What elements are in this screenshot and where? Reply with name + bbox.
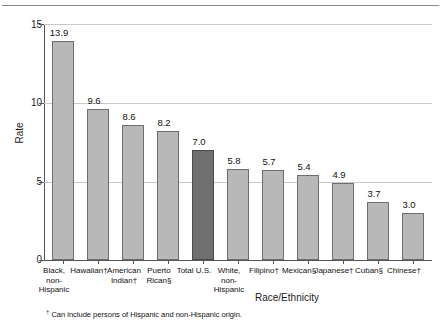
- bar-mexican[interactable]: [297, 175, 319, 260]
- ytick-label-5: 5: [8, 177, 42, 187]
- category-line: non-: [46, 276, 62, 285]
- bar-value-puerto-rican: 8.2: [147, 118, 181, 128]
- bar-value-white-non-hispanic: 5.8: [217, 156, 251, 166]
- bar-japanese[interactable]: [332, 183, 354, 260]
- category-line: Chinese†: [387, 266, 421, 275]
- category-line: Puerto: [147, 266, 171, 275]
- category-line: Hispanic: [214, 285, 245, 294]
- bar-value-chinese: 3.0: [392, 200, 426, 210]
- footnote-text: Can include persons of Hispanic and non-…: [49, 310, 242, 319]
- category-line: non-: [221, 276, 237, 285]
- bar-value-filipino: 5.7: [252, 157, 286, 167]
- xtick-mark-0: [63, 260, 64, 264]
- ytick-label-10: 10: [8, 98, 42, 108]
- bar-black-non-hispanic[interactable]: [52, 41, 74, 260]
- bar-hawaiian[interactable]: [87, 109, 109, 260]
- x-axis-label: Race/Ethnicity: [255, 292, 415, 303]
- category-line: Black,: [43, 266, 65, 275]
- xtick-mark-2: [133, 260, 134, 264]
- top-divider-rule: [2, 5, 439, 6]
- bar-value-american-indian: 8.6: [112, 112, 146, 122]
- bar-total-us[interactable]: [192, 150, 214, 260]
- category-line: White,: [218, 266, 241, 275]
- xtick-mark-6: [273, 260, 274, 264]
- bar-value-hawaiian: 9.6: [77, 96, 111, 106]
- category-label-chinese: Chinese†: [379, 266, 429, 276]
- y-axis-label: Rate: [15, 107, 25, 159]
- plot-area: [44, 24, 432, 260]
- xtick-mark-4: [203, 260, 204, 264]
- bar-filipino[interactable]: [262, 170, 284, 260]
- bar-value-mexican: 5.4: [287, 162, 321, 172]
- bar-value-cuban: 3.7: [357, 189, 391, 199]
- bar-white-non-hispanic[interactable]: [227, 169, 249, 260]
- bar-cuban[interactable]: [367, 202, 389, 260]
- bar-chinese[interactable]: [402, 213, 424, 260]
- ytick-label-15: 15: [8, 20, 42, 30]
- gridline-15: [44, 24, 432, 25]
- xtick-mark-3: [168, 260, 169, 264]
- xtick-mark-8: [343, 260, 344, 264]
- bar-american-indian[interactable]: [122, 125, 144, 260]
- bar-value-total-us: 7.0: [182, 137, 216, 147]
- category-line: Hispanic: [39, 285, 70, 294]
- bar-puerto-rican[interactable]: [157, 131, 179, 260]
- ytick-label-0: 0: [8, 255, 42, 265]
- bar-value-black-non-hispanic: 13.9: [42, 28, 76, 38]
- xtick-mark-7: [308, 260, 309, 264]
- xtick-mark-5: [238, 260, 239, 264]
- xtick-mark-1: [98, 260, 99, 264]
- chart-figure: 15 10 5 0 Rate 13.9 9.6 8.6 8.2 7.0 5.8 …: [0, 0, 443, 324]
- xtick-mark-10: [413, 260, 414, 264]
- category-line: Rican§: [147, 276, 172, 285]
- bar-value-japanese: 4.9: [322, 170, 356, 180]
- xtick-mark-9: [378, 260, 379, 264]
- footnote: † Can include persons of Hispanic and no…: [46, 310, 242, 319]
